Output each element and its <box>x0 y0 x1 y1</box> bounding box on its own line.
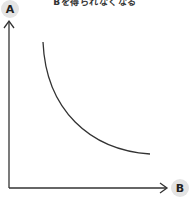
tradeoff-curve <box>43 42 150 154</box>
y-axis-label: A <box>6 3 15 16</box>
x-axis-label-badge: B <box>171 179 189 197</box>
y-axis-label-badge: A <box>1 0 19 18</box>
tradeoff-diagram: A B <box>0 0 190 203</box>
x-axis-label: B <box>176 182 184 195</box>
